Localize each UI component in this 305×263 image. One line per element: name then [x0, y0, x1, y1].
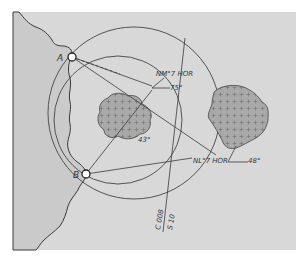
point-b-marker — [82, 170, 90, 178]
angle-label-shoal: 43° — [138, 136, 150, 144]
point-a-marker — [68, 53, 76, 61]
danger-circle-navigation-diagram: A B NM°7 HOR 75° 43° NL°7 HOR 48° C 008 … — [0, 0, 305, 263]
angle-label-top: 75° — [170, 84, 182, 92]
bearing-label-right: NL°7 HOR — [193, 157, 228, 165]
angle-label-right: 48° — [248, 157, 260, 165]
bearing-label-top: NM°7 HOR — [156, 70, 193, 78]
point-a-label: A — [56, 53, 63, 63]
point-b-label: B — [73, 170, 79, 180]
